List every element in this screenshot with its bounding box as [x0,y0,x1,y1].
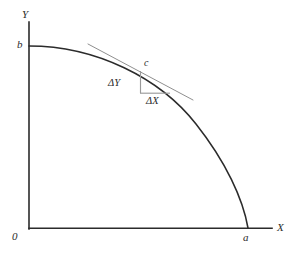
origin-label: 0 [12,231,18,242]
delta-y-label: ΔY [108,78,120,89]
ppf-diagram: Y X b a c ΔY ΔX 0 [0,0,304,256]
tangency-point-label: c [144,58,148,68]
ppf-graphic [0,0,304,256]
x-axis-label: X [277,222,284,233]
production-possibility-frontier-curve [29,46,248,228]
x-intercept-label: a [243,232,249,243]
delta-x-label: ΔX [146,96,159,107]
y-intercept-label: b [17,39,23,50]
y-axis-label: Y [22,9,28,20]
